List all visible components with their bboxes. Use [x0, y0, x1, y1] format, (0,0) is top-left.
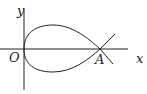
loop-upper: [24, 25, 100, 49]
loop-lower: [24, 49, 100, 72]
diagram: y O A x: [0, 0, 147, 94]
x-axis-label: x: [136, 52, 143, 65]
branch-upper: [100, 34, 115, 49]
origin-label: O: [9, 51, 20, 64]
point-a-label: A: [95, 53, 104, 66]
y-axis-label: y: [17, 4, 24, 17]
